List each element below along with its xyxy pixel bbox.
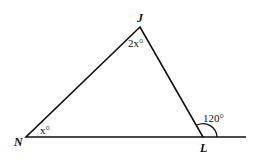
angle-label-j: 2x° (128, 37, 143, 49)
vertex-label-n: N (13, 135, 24, 149)
vertex-label-j: J (136, 11, 144, 25)
triangle-diagram: J N L 2x° x° 120° (0, 0, 259, 160)
vertex-label-l: L (199, 141, 207, 155)
exterior-angle-label-l: 120° (203, 112, 224, 124)
angle-label-n: x° (40, 124, 50, 136)
triangle-jnl (26, 27, 203, 137)
